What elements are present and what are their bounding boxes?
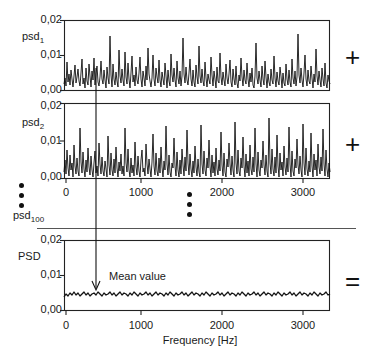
- panel3-x-ticks: [66, 311, 303, 316]
- panel3-psd-average-trace: [64, 292, 330, 297]
- panel1-y-ticks: [60, 21, 65, 91]
- panel1-psd-trace: [64, 34, 330, 88]
- panel3-frame: [65, 241, 330, 311]
- figure-canvas: [0, 0, 376, 353]
- psd-averaging-diagram: 0,02 0,01 0,00 psd1 0,02 0,01 0,00 psd2 …: [0, 0, 376, 353]
- panel2-psd-trace: [64, 118, 330, 177]
- panel2-y-ticks: [60, 104, 65, 179]
- panel3-y-ticks: [60, 241, 65, 311]
- panel2-x-ticks: [66, 179, 303, 184]
